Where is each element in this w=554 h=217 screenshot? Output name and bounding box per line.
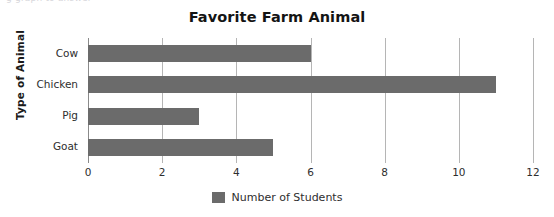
bars <box>88 38 533 163</box>
x-tick-label-12: 12 <box>526 166 539 178</box>
plot-area <box>88 38 533 163</box>
chart-title: Favorite Farm Animal <box>0 9 554 25</box>
bar-chart: g graph to answer Favorite Farm Animal T… <box>0 0 554 217</box>
x-tick-label-0: 0 <box>85 166 92 178</box>
legend-label-0: Number of Students <box>232 191 343 204</box>
category-label-chicken: Chicken <box>37 78 79 90</box>
category-label-goat: Goat <box>53 140 78 152</box>
legend-swatch-0 <box>212 192 225 203</box>
bar-chicken <box>88 76 496 93</box>
bar-goat <box>88 139 273 156</box>
gridline-x-12 <box>533 38 534 163</box>
bar-cow <box>88 45 311 62</box>
category-label-pig: Pig <box>62 109 78 121</box>
x-tick-label-10: 10 <box>452 166 465 178</box>
x-tick-label-6: 6 <box>307 166 314 178</box>
x-tick-label-8: 8 <box>381 166 388 178</box>
x-axis-tick-labels: 024681012 <box>88 166 533 182</box>
clipped-header-text: g graph to answer <box>6 0 92 3</box>
x-tick-label-2: 2 <box>159 166 166 178</box>
x-tick-label-4: 4 <box>233 166 240 178</box>
bar-pig <box>88 108 199 125</box>
category-label-cow: Cow <box>56 47 78 59</box>
y-axis-category-labels: CowChickenPigGoat <box>0 38 84 163</box>
chart-legend: Number of Students <box>0 191 554 204</box>
